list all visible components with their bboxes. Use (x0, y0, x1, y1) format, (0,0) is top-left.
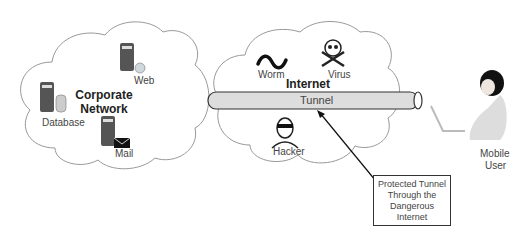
mobile-user-icon (431, 70, 507, 140)
callout-line: Through the (374, 190, 450, 201)
mail-label: Mail (115, 148, 133, 159)
tunnel-label: Tunnel (300, 94, 333, 106)
callout-box: Protected Tunnel Through the Dangerous I… (373, 175, 451, 226)
virus-label: Virus (328, 69, 351, 80)
database-label: Database (42, 117, 85, 128)
callout-line: Internet (374, 212, 450, 223)
internet-title: Internet (286, 77, 330, 91)
hacker-label: Hacker (273, 146, 305, 157)
corporate-network-title: Corporate Network (69, 88, 139, 116)
worm-label: Worm (258, 69, 284, 80)
mobile-user-label-line2: User (485, 160, 506, 171)
callout-line: Protected Tunnel (374, 179, 450, 190)
mobile-user-label-line1: Mobile (480, 148, 509, 159)
web-label: Web (134, 75, 154, 86)
callout-line: Dangerous (374, 201, 450, 212)
